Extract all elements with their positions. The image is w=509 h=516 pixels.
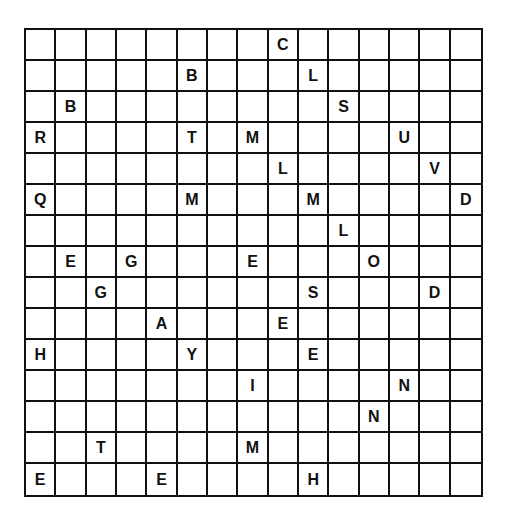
grid-cell-r6-c8[interactable] bbox=[269, 216, 299, 247]
grid-cell-r6-c1[interactable] bbox=[56, 216, 86, 247]
grid-cell-r11-c10[interactable] bbox=[329, 371, 359, 402]
grid-cell-r2-c0[interactable] bbox=[26, 92, 56, 123]
grid-cell-r5-c10[interactable] bbox=[329, 185, 359, 216]
grid-cell-r10-c3[interactable] bbox=[117, 340, 147, 371]
grid-cell-r12-c2[interactable] bbox=[87, 402, 117, 433]
grid-cell-r9-c13[interactable] bbox=[420, 309, 450, 340]
grid-cell-r3-c6[interactable] bbox=[208, 123, 238, 154]
grid-cell-r13-c7[interactable]: M bbox=[238, 433, 268, 464]
grid-cell-r3-c11[interactable] bbox=[360, 123, 390, 154]
grid-cell-r5-c11[interactable] bbox=[360, 185, 390, 216]
grid-cell-r10-c10[interactable] bbox=[329, 340, 359, 371]
grid-cell-r12-c10[interactable] bbox=[329, 402, 359, 433]
grid-cell-r11-c6[interactable] bbox=[208, 371, 238, 402]
grid-cell-r9-c8[interactable]: E bbox=[269, 309, 299, 340]
grid-cell-r14-c10[interactable] bbox=[329, 464, 359, 495]
grid-cell-r8-c6[interactable] bbox=[208, 278, 238, 309]
grid-cell-r8-c3[interactable] bbox=[117, 278, 147, 309]
grid-cell-r13-c10[interactable] bbox=[329, 433, 359, 464]
grid-cell-r11-c1[interactable] bbox=[56, 371, 86, 402]
grid-cell-r5-c4[interactable] bbox=[147, 185, 177, 216]
grid-cell-r8-c10[interactable] bbox=[329, 278, 359, 309]
grid-cell-r0-c9[interactable] bbox=[299, 30, 329, 61]
grid-cell-r9-c11[interactable] bbox=[360, 309, 390, 340]
grid-cell-r1-c6[interactable] bbox=[208, 61, 238, 92]
grid-cell-r4-c4[interactable] bbox=[147, 154, 177, 185]
grid-cell-r8-c14[interactable] bbox=[451, 278, 481, 309]
grid-cell-r5-c1[interactable] bbox=[56, 185, 86, 216]
grid-cell-r8-c8[interactable] bbox=[269, 278, 299, 309]
grid-cell-r5-c9[interactable]: M bbox=[299, 185, 329, 216]
grid-cell-r9-c10[interactable] bbox=[329, 309, 359, 340]
grid-cell-r3-c12[interactable]: U bbox=[390, 123, 420, 154]
grid-cell-r10-c12[interactable] bbox=[390, 340, 420, 371]
grid-cell-r3-c4[interactable] bbox=[147, 123, 177, 154]
grid-cell-r11-c14[interactable] bbox=[451, 371, 481, 402]
grid-cell-r4-c11[interactable] bbox=[360, 154, 390, 185]
grid-cell-r5-c3[interactable] bbox=[117, 185, 147, 216]
grid-cell-r11-c8[interactable] bbox=[269, 371, 299, 402]
grid-cell-r8-c11[interactable] bbox=[360, 278, 390, 309]
grid-cell-r11-c0[interactable] bbox=[26, 371, 56, 402]
grid-cell-r7-c10[interactable] bbox=[329, 247, 359, 278]
grid-cell-r7-c2[interactable] bbox=[87, 247, 117, 278]
grid-cell-r12-c4[interactable] bbox=[147, 402, 177, 433]
grid-cell-r3-c1[interactable] bbox=[56, 123, 86, 154]
grid-cell-r9-c9[interactable] bbox=[299, 309, 329, 340]
grid-cell-r12-c7[interactable] bbox=[238, 402, 268, 433]
grid-cell-r13-c11[interactable] bbox=[360, 433, 390, 464]
grid-cell-r6-c11[interactable] bbox=[360, 216, 390, 247]
grid-cell-r2-c12[interactable] bbox=[390, 92, 420, 123]
grid-cell-r7-c11[interactable]: O bbox=[360, 247, 390, 278]
grid-cell-r6-c2[interactable] bbox=[87, 216, 117, 247]
grid-cell-r11-c3[interactable] bbox=[117, 371, 147, 402]
grid-cell-r10-c5[interactable]: Y bbox=[178, 340, 208, 371]
grid-cell-r14-c1[interactable] bbox=[56, 464, 86, 495]
grid-cell-r7-c6[interactable] bbox=[208, 247, 238, 278]
grid-cell-r1-c2[interactable] bbox=[87, 61, 117, 92]
grid-cell-r10-c7[interactable] bbox=[238, 340, 268, 371]
grid-cell-r12-c12[interactable] bbox=[390, 402, 420, 433]
grid-cell-r5-c2[interactable] bbox=[87, 185, 117, 216]
grid-cell-r1-c3[interactable] bbox=[117, 61, 147, 92]
grid-cell-r3-c14[interactable] bbox=[451, 123, 481, 154]
grid-cell-r5-c0[interactable]: Q bbox=[26, 185, 56, 216]
grid-cell-r13-c4[interactable] bbox=[147, 433, 177, 464]
grid-cell-r12-c8[interactable] bbox=[269, 402, 299, 433]
grid-cell-r7-c12[interactable] bbox=[390, 247, 420, 278]
grid-cell-r2-c7[interactable] bbox=[238, 92, 268, 123]
grid-cell-r0-c14[interactable] bbox=[451, 30, 481, 61]
grid-cell-r5-c7[interactable] bbox=[238, 185, 268, 216]
grid-cell-r7-c3[interactable]: G bbox=[117, 247, 147, 278]
grid-cell-r8-c13[interactable]: D bbox=[420, 278, 450, 309]
grid-cell-r13-c9[interactable] bbox=[299, 433, 329, 464]
grid-cell-r9-c1[interactable] bbox=[56, 309, 86, 340]
grid-cell-r8-c9[interactable]: S bbox=[299, 278, 329, 309]
grid-cell-r12-c0[interactable] bbox=[26, 402, 56, 433]
grid-cell-r1-c1[interactable] bbox=[56, 61, 86, 92]
grid-cell-r6-c7[interactable] bbox=[238, 216, 268, 247]
grid-cell-r5-c8[interactable] bbox=[269, 185, 299, 216]
grid-cell-r12-c13[interactable] bbox=[420, 402, 450, 433]
grid-cell-r8-c4[interactable] bbox=[147, 278, 177, 309]
grid-cell-r9-c0[interactable] bbox=[26, 309, 56, 340]
grid-cell-r7-c1[interactable]: E bbox=[56, 247, 86, 278]
grid-cell-r8-c0[interactable] bbox=[26, 278, 56, 309]
grid-cell-r6-c14[interactable] bbox=[451, 216, 481, 247]
grid-cell-r6-c10[interactable]: L bbox=[329, 216, 359, 247]
grid-cell-r13-c2[interactable]: T bbox=[87, 433, 117, 464]
grid-cell-r3-c8[interactable] bbox=[269, 123, 299, 154]
grid-cell-r10-c1[interactable] bbox=[56, 340, 86, 371]
grid-cell-r3-c0[interactable]: R bbox=[26, 123, 56, 154]
grid-cell-r13-c14[interactable] bbox=[451, 433, 481, 464]
grid-cell-r10-c8[interactable] bbox=[269, 340, 299, 371]
grid-cell-r8-c5[interactable] bbox=[178, 278, 208, 309]
grid-cell-r4-c13[interactable]: V bbox=[420, 154, 450, 185]
grid-cell-r13-c5[interactable] bbox=[178, 433, 208, 464]
grid-cell-r7-c0[interactable] bbox=[26, 247, 56, 278]
grid-cell-r4-c5[interactable] bbox=[178, 154, 208, 185]
grid-cell-r9-c7[interactable] bbox=[238, 309, 268, 340]
grid-cell-r0-c3[interactable] bbox=[117, 30, 147, 61]
grid-cell-r14-c12[interactable] bbox=[390, 464, 420, 495]
grid-cell-r7-c13[interactable] bbox=[420, 247, 450, 278]
